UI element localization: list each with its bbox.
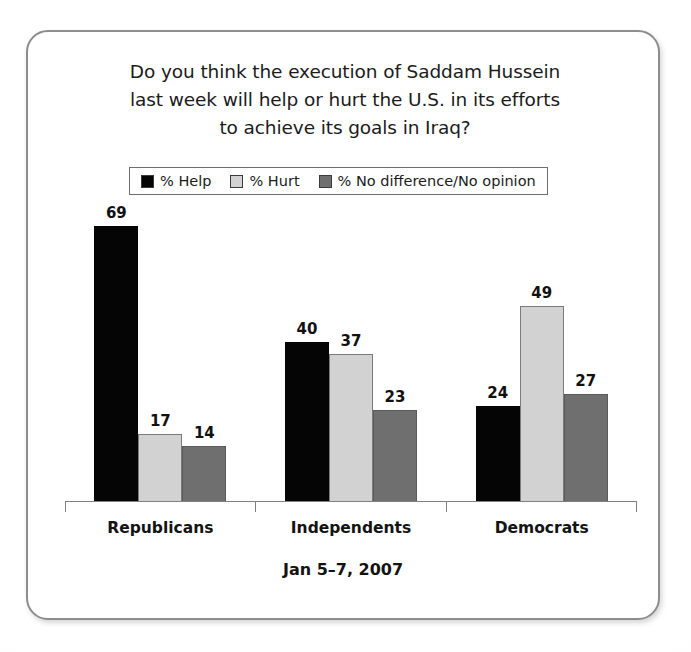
chart-title-line-3: to achieve its goals in Iraq? (74, 114, 616, 142)
category-label-independents: Independents (256, 519, 447, 537)
bar-independents-hurt: 37 (329, 182, 373, 502)
bar-rect (285, 342, 329, 502)
chart-title-line-1: Do you think the execution of Saddam Hus… (74, 58, 616, 86)
bar-democrats-no-difference: 27 (564, 182, 608, 502)
scanned-page: Do you think the execution of Saddam Hus… (0, 0, 691, 652)
bar-value-label: 37 (341, 332, 362, 350)
axis-tick (446, 501, 447, 512)
plot-area: 69 17 14 (65, 182, 637, 502)
bar-value-label: 27 (575, 372, 596, 390)
category-label-democrats: Democrats (446, 519, 637, 537)
bar-value-label: 40 (297, 320, 318, 338)
bar-groups: 69 17 14 (65, 182, 637, 502)
axis-tick (65, 501, 66, 512)
bar-democrats-help: 24 (476, 182, 520, 502)
bar-value-label: 23 (385, 388, 406, 406)
x-axis-baseline (65, 501, 637, 502)
bar-republicans-hurt: 17 (138, 182, 182, 502)
bar-rect (373, 410, 417, 502)
chart-footer-date: Jan 5–7, 2007 (28, 560, 658, 579)
bar-value-label: 14 (194, 424, 215, 442)
bar-rect (476, 406, 520, 502)
bar-republicans-help: 69 (94, 182, 138, 502)
bar-republicans-no-difference: 14 (182, 182, 226, 502)
axis-tick (255, 501, 256, 512)
bar-independents-help: 40 (285, 182, 329, 502)
bar-rect (329, 354, 373, 502)
bar-rect (138, 434, 182, 502)
chart-title: Do you think the execution of Saddam Hus… (74, 58, 616, 142)
bar-democrats-hurt: 49 (520, 182, 564, 502)
category-label-republicans: Republicans (65, 519, 256, 537)
chart-title-line-2: last week will help or hurt the U.S. in … (74, 86, 616, 114)
bar-rect (94, 226, 138, 502)
bar-group-republicans: 69 17 14 (65, 182, 256, 502)
bar-rect (520, 306, 564, 502)
axis-tick (636, 501, 637, 512)
bar-rect (564, 394, 608, 502)
bar-value-label: 69 (106, 204, 127, 222)
bar-group-democrats: 24 49 27 (446, 182, 637, 502)
bar-rect (182, 446, 226, 502)
bar-group-independents: 40 37 23 (256, 182, 447, 502)
x-axis-category-labels: Republicans Independents Democrats (65, 519, 637, 537)
bar-value-label: 24 (487, 384, 508, 402)
bar-value-label: 17 (150, 412, 171, 430)
chart-card: Do you think the execution of Saddam Hus… (26, 30, 660, 620)
bar-independents-no-difference: 23 (373, 182, 417, 502)
bar-value-label: 49 (531, 284, 552, 302)
